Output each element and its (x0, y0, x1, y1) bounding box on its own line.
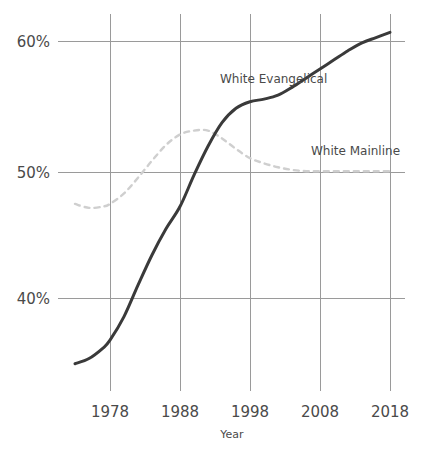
chart-container: 60% 50% 40% 1978 1988 1998 2008 2018 Yea… (0, 0, 421, 456)
x-tick-label-2008: 2008 (301, 403, 339, 421)
vertical-gridlines (111, 14, 391, 391)
x-tick-label-2018: 2018 (371, 403, 409, 421)
x-tick-label-1998: 1998 (231, 403, 269, 421)
y-tick-label-60: 60% (17, 33, 50, 51)
y-tick-label-40: 40% (17, 290, 50, 308)
line-chart: 60% 50% 40% 1978 1988 1998 2008 2018 Yea… (0, 0, 421, 456)
y-tickmarks (58, 42, 65, 299)
y-tick-label-50: 50% (17, 164, 50, 182)
series-label-white-evangelical: White Evangelical (220, 72, 327, 86)
x-tick-label-1978: 1978 (91, 403, 129, 421)
series-annotations: White Evangelical White Mainline (220, 72, 400, 158)
series-line-white-mainline (75, 130, 390, 208)
x-axis-tick-labels: 1978 1988 1998 2008 2018 (91, 403, 409, 421)
x-tick-label-1988: 1988 (161, 403, 199, 421)
y-axis-tick-labels: 60% 50% 40% (17, 33, 50, 308)
x-axis-title: Year (219, 428, 244, 441)
series-label-white-mainline: White Mainline (311, 144, 400, 158)
